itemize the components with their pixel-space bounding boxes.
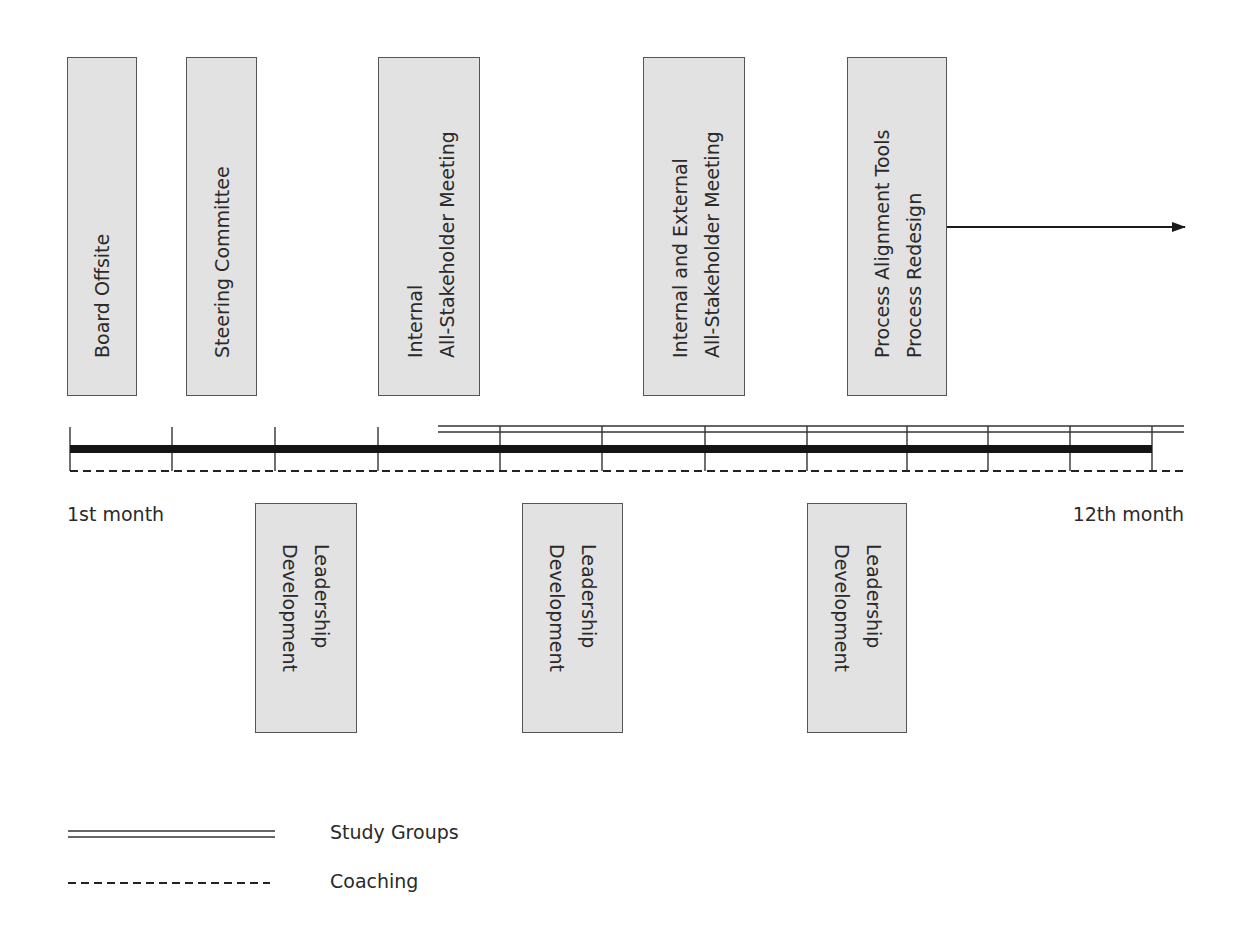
box-label-line: Internal [399,131,431,358]
box-label: Leadership Development [541,544,605,672]
legend-coaching-label: Coaching [330,870,418,892]
box-label-line: Internal and External [664,131,696,358]
box-steering-committee: Steering Committee [186,57,257,396]
box-label-line: All-Stakeholder Meeting [431,131,463,358]
box-label-line: Development [826,544,858,672]
box-label-line: Steering Committee [206,166,238,358]
box-label: Leadership Development [826,544,890,672]
box-label-line: Leadership [858,544,890,672]
start-month-label: 1st month [67,503,164,525]
timeline-bar [70,445,1152,453]
legend-study-groups-swatch [68,831,275,837]
box-leadership-development-3: Leadership Development [807,503,907,733]
box-label-line: Development [541,544,573,672]
box-internal-external-all-stakeholder: Internal and External All-Stakeholder Me… [643,57,745,396]
box-process-alignment: Process Alignment Tools Process Redesign [847,57,947,396]
box-leadership-development-1: Leadership Development [255,503,357,733]
box-label: Leadership Development [274,544,338,672]
box-label-line: Process Redesign [898,130,930,358]
box-leadership-development-2: Leadership Development [522,503,623,733]
box-label-line: Leadership [306,544,338,672]
box-label-line: Development [274,544,306,672]
study-groups-line [438,426,1184,432]
box-label-line: All-Stakeholder Meeting [696,131,728,358]
box-internal-all-stakeholder: Internal All-Stakeholder Meeting [378,57,480,396]
legend-study-groups-label: Study Groups [330,821,459,843]
box-board-offsite: Board Offsite [67,57,137,396]
end-month-label: 12th month [1073,503,1184,525]
box-label-line: Leadership [573,544,605,672]
box-label-line: Process Alignment Tools [866,130,898,358]
box-label-line: Board Offsite [86,234,118,358]
